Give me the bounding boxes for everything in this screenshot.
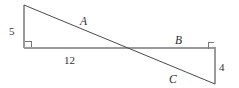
left-right-angle-icon xyxy=(25,41,31,47)
transversal-hypotenuse-line xyxy=(24,5,215,84)
segment-label-a: A xyxy=(80,16,87,28)
figure-canvas xyxy=(0,0,239,88)
side-length-12: 12 xyxy=(64,55,75,66)
geometry-figure: 5 12 4 A B C xyxy=(0,0,239,88)
side-length-4: 4 xyxy=(219,62,225,73)
segment-label-b: B xyxy=(175,35,182,47)
side-length-5: 5 xyxy=(9,26,15,37)
segment-label-c: C xyxy=(169,74,177,86)
